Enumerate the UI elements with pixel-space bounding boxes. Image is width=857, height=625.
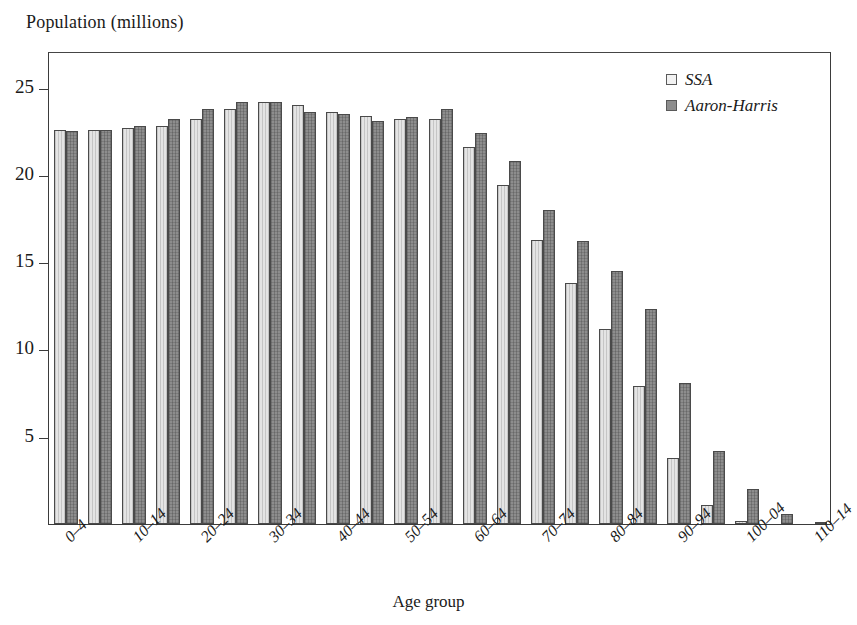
bar-ah-30-34 [270, 102, 282, 524]
bar-ah-45-49 [372, 121, 384, 524]
y-tick-label: 20 [0, 163, 34, 185]
bar-group [497, 53, 521, 524]
bar-group [701, 53, 725, 524]
legend-item-aaron-harris: Aaron-Harris [666, 96, 778, 114]
bar-group [429, 53, 453, 524]
bar-ah-95-99 [713, 451, 725, 524]
bar-group [88, 53, 112, 524]
y-tick-mark [39, 263, 48, 264]
bar-group [258, 53, 282, 524]
y-tick-mark [39, 89, 48, 90]
bar-group [803, 53, 827, 524]
bar-ssa-90-94 [667, 458, 679, 524]
bar-ssa-0-4 [54, 130, 66, 524]
bar-series-container [49, 53, 830, 524]
bar-ah-80-84 [611, 271, 623, 524]
bar-ssa-65-69 [497, 185, 509, 524]
bar-ssa-80-84 [599, 329, 611, 524]
bar-ah-50-54 [406, 117, 418, 524]
bar-ssa-55-59 [429, 119, 441, 524]
bar-ssa-85-89 [633, 386, 645, 524]
bar-ssa-5-9 [88, 130, 100, 524]
y-tick-mark [39, 176, 48, 177]
bar-ah-60-64 [475, 133, 487, 524]
y-tick-mark [39, 438, 48, 439]
bar-group [156, 53, 180, 524]
bar-ah-25-29 [236, 102, 248, 524]
bar-ah-15-19 [168, 119, 180, 524]
dark-gray-swatch-icon [666, 100, 677, 111]
bar-ssa-35-39 [292, 105, 304, 524]
y-tick-label: 10 [0, 337, 34, 359]
bar-ah-5-9 [100, 130, 112, 524]
bar-ssa-20-24 [190, 119, 202, 524]
bar-ssa-70-74 [531, 240, 543, 524]
bar-group [531, 53, 555, 524]
bar-ssa-40-44 [326, 112, 338, 524]
bar-group [292, 53, 316, 524]
legend: SSA Aaron-Harris [666, 70, 778, 122]
bar-group [122, 53, 146, 524]
y-tick-label: 5 [0, 425, 34, 447]
bar-ssa-45-49 [360, 116, 372, 524]
bar-ah-90-94 [679, 383, 691, 524]
bar-ssa-25-29 [224, 109, 236, 524]
bar-group [769, 53, 793, 524]
bar-ah-75-79 [577, 241, 589, 524]
x-axis-title: Age group [0, 592, 857, 612]
bar-ssa-100-04 [735, 521, 747, 524]
bar-ssa-15-19 [156, 126, 168, 524]
bar-group [667, 53, 691, 524]
plot-area [48, 52, 831, 525]
bar-group [633, 53, 657, 524]
y-tick-label: 15 [0, 250, 34, 272]
y-tick-label: 25 [0, 76, 34, 98]
bar-ah-70-74 [543, 210, 555, 524]
bar-ssa-10-14 [122, 128, 134, 524]
bar-ah-55-59 [441, 109, 453, 524]
legend-label-aaron-harris: Aaron-Harris [685, 97, 778, 114]
bar-group [463, 53, 487, 524]
bar-ah-0-4 [66, 131, 78, 524]
bar-group [190, 53, 214, 524]
bar-group [394, 53, 418, 524]
bar-ah-40-44 [338, 114, 350, 524]
bar-ah-65-69 [509, 161, 521, 524]
bar-group [224, 53, 248, 524]
y-axis-title: Population (millions) [26, 12, 184, 33]
bar-group [54, 53, 78, 524]
bar-ah-85-89 [645, 309, 657, 524]
y-tick-mark [39, 350, 48, 351]
figure: Population (millions) 510152025 0–410–14… [0, 0, 857, 625]
bar-group [735, 53, 759, 524]
bar-group [599, 53, 623, 524]
bar-ah-20-24 [202, 109, 214, 524]
bar-ssa-30-34 [258, 102, 270, 524]
bar-ah-35-39 [304, 112, 316, 524]
bar-group [326, 53, 350, 524]
bar-group [360, 53, 384, 524]
legend-label-ssa: SSA [685, 71, 712, 88]
bar-ssa-75-79 [565, 283, 577, 524]
bar-group [565, 53, 589, 524]
bar-ah-10-14 [134, 126, 146, 524]
bar-ssa-50-54 [394, 119, 406, 524]
bar-ssa-60-64 [463, 147, 475, 524]
legend-item-ssa: SSA [666, 70, 778, 88]
light-gray-swatch-icon [666, 74, 677, 85]
